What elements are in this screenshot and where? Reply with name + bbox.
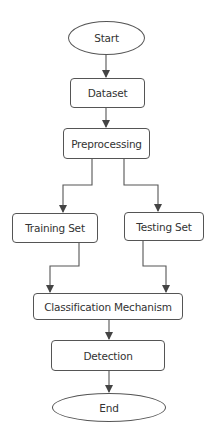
testing-set-node: Testing Set [124,212,204,241]
classification-mechanism-label: Classification Mechanism [44,301,172,313]
detection-node: Detection [51,340,165,371]
start-label: Start [94,32,119,44]
arrow-training-to-classification [50,242,79,292]
arrow-testing-to-classification [143,240,166,292]
start-node: Start [68,21,145,55]
end-node: End [52,393,166,422]
testing-set-label: Testing Set [136,221,191,233]
training-set-node: Training Set [12,213,98,243]
end-label: End [99,402,118,414]
dataset-label: Dataset [88,87,128,99]
arrow-preprocessing-to-testing [124,158,158,211]
training-set-label: Training Set [25,222,85,234]
preprocessing-label: Preprocessing [71,138,142,150]
classification-mechanism-node: Classification Mechanism [33,293,183,320]
preprocessing-node: Preprocessing [63,128,150,159]
detection-label: Detection [83,350,132,362]
arrow-preprocessing-to-training [63,158,92,212]
dataset-node: Dataset [70,78,145,108]
